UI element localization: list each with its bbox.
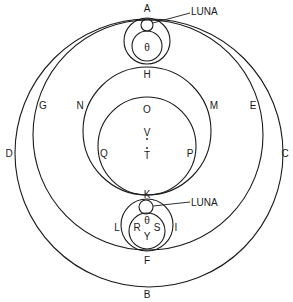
label-theta-top: θ	[144, 42, 150, 53]
label-m: M	[210, 100, 218, 111]
label-h: H	[143, 69, 150, 80]
label-n: N	[76, 100, 83, 111]
label-l: L	[114, 222, 120, 233]
v-point-dot	[146, 138, 148, 140]
label-a: A	[144, 3, 151, 14]
label-y: Y	[144, 231, 151, 242]
label-k: K	[144, 189, 151, 200]
label-o: O	[143, 104, 151, 115]
label-b: B	[144, 289, 151, 300]
label-theta-bottom: θ	[144, 215, 150, 226]
label-c: C	[281, 148, 288, 159]
label-s: S	[154, 222, 161, 233]
label-v: V	[144, 127, 151, 138]
label-e: E	[250, 100, 257, 111]
label-g: G	[39, 100, 47, 111]
top-luna-circle	[141, 19, 153, 31]
label-q: Q	[100, 148, 108, 159]
label-luna-top: LUNA	[191, 6, 218, 17]
label-f: F	[144, 255, 150, 266]
orbit-diagram: A LUNA θ H G N O M E V D Q T P C K LUNA …	[0, 0, 293, 302]
label-d: D	[5, 148, 12, 159]
label-t: T	[144, 150, 150, 161]
label-r: R	[133, 222, 140, 233]
label-i: I	[175, 222, 178, 233]
top-luna-leader	[153, 13, 190, 23]
bottom-luna-leader	[153, 202, 190, 206]
label-luna-bottom: LUNA	[191, 197, 218, 208]
label-p: P	[187, 148, 194, 159]
diagram-canvas: A LUNA θ H G N O M E V D Q T P C K LUNA …	[0, 0, 293, 302]
bottom-luna-circle	[139, 200, 153, 214]
